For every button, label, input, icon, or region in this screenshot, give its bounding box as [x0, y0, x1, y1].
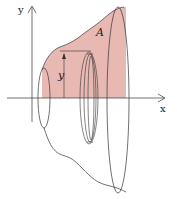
- y-axis-label: y: [17, 4, 24, 15]
- region-label: A: [95, 26, 104, 39]
- solid-bottom-outline: [44, 128, 126, 192]
- solid-of-revolution-diagram: y x A y: [0, 0, 177, 199]
- radius-label: y: [57, 69, 65, 82]
- diagram-stage: y x A y: [0, 0, 177, 199]
- y-axis: [28, 6, 36, 122]
- x-axis-label: x: [160, 103, 166, 114]
